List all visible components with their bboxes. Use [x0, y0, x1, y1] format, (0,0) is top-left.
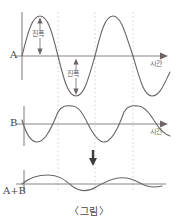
time-axis-label-b: 시간	[150, 129, 162, 136]
superposition-arrow	[89, 150, 97, 166]
amplitude-crest-up-arrowhead	[37, 18, 42, 24]
time-axis-label-a: 시간	[150, 61, 162, 68]
amplitude-trough-up-arrowhead	[73, 59, 78, 65]
panel-a	[16, 12, 170, 96]
panel-a-plus-b	[16, 170, 166, 192]
panel-b	[16, 106, 170, 146]
wave-diagram-svg	[0, 0, 178, 222]
series-label-a: A	[10, 50, 17, 60]
amplitude-label-trough: 진폭	[67, 71, 79, 78]
amplitude-label-crest: 진폭	[32, 31, 44, 38]
axis-b-arrowhead	[160, 121, 168, 128]
amplitude-trough-down-arrowhead	[73, 89, 78, 96]
axis-a-arrowhead	[160, 53, 168, 60]
guide-lines	[58, 12, 133, 192]
series-label-sum: A+B	[3, 186, 26, 196]
superposition-arrow-head	[89, 158, 97, 166]
wave-sum-curve	[22, 175, 162, 191]
amplitude-crest-down-arrowhead	[37, 49, 42, 56]
figure-caption-row: 〈그림〉	[0, 200, 178, 219]
wave-superposition-figure: 진폭 진폭 시간 시간 A B A+B 〈그림〉	[0, 0, 178, 222]
figure-caption: 〈그림〉	[69, 206, 109, 217]
series-label-b: B	[10, 118, 17, 128]
